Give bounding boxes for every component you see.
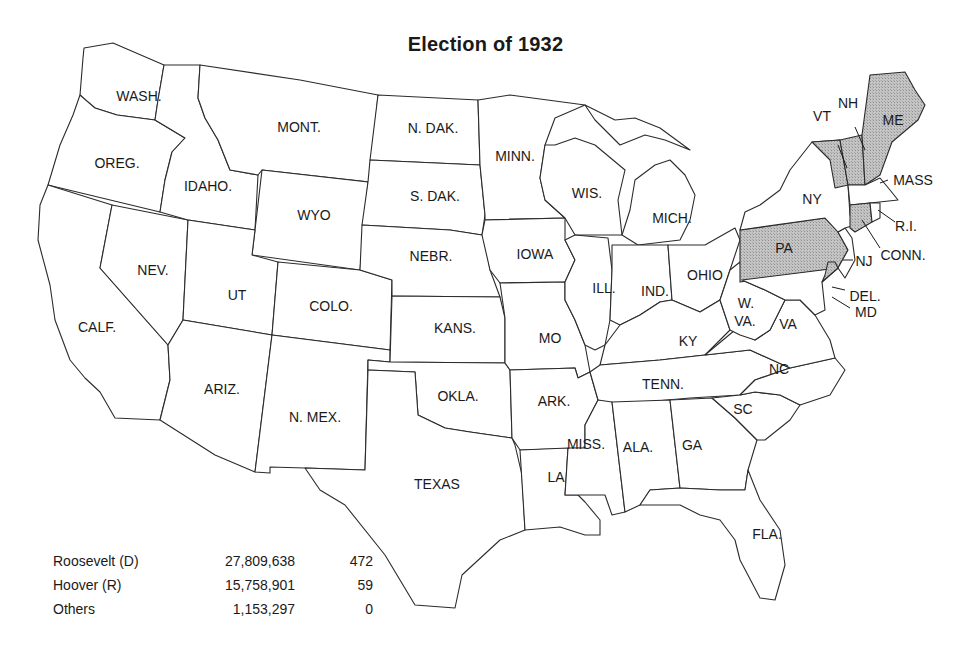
label-texas: TEXAS bbox=[414, 476, 460, 492]
state-connecticut[interactable] bbox=[850, 203, 872, 232]
label-calf: CALF. bbox=[78, 319, 116, 335]
label-ark: ARK. bbox=[538, 393, 571, 409]
label-ill: ILL. bbox=[592, 280, 615, 296]
label-wash: WASH. bbox=[116, 88, 161, 104]
label-vt: VT bbox=[813, 108, 831, 124]
label-nebr: NEBR. bbox=[410, 248, 453, 264]
popular-vote: 1,153,297 bbox=[233, 601, 295, 617]
label-tenn: TENN. bbox=[642, 376, 684, 392]
label-kans: KANS. bbox=[434, 320, 476, 336]
label-nh: NH bbox=[838, 95, 858, 111]
state-michigan[interactable] bbox=[622, 160, 695, 245]
label-ind: IND. bbox=[641, 283, 669, 299]
candidate-name: Hoover (R) bbox=[53, 577, 121, 593]
results-table: Roosevelt (D) 27,809,638 472 Hoover (R) … bbox=[53, 553, 373, 625]
label-me: ME bbox=[883, 112, 904, 128]
state-maine[interactable] bbox=[862, 72, 925, 185]
candidate-name: Others bbox=[53, 601, 95, 617]
label-sc: SC bbox=[733, 401, 752, 417]
results-row-others: Others 1,153,297 0 bbox=[53, 601, 373, 625]
label-wis: WIS. bbox=[572, 185, 602, 201]
label-ny: NY bbox=[802, 191, 822, 207]
label-pa: PA bbox=[775, 240, 793, 256]
label-conn: CONN. bbox=[880, 247, 925, 263]
label-nev: NEV. bbox=[137, 262, 168, 278]
results-row-roosevelt: Roosevelt (D) 27,809,638 472 bbox=[53, 553, 373, 577]
popular-vote: 27,809,638 bbox=[225, 553, 295, 569]
label-ariz: ARIZ. bbox=[204, 381, 240, 397]
label-oreg: OREG. bbox=[94, 155, 139, 171]
leader-del bbox=[832, 287, 845, 290]
label-ala: ALA. bbox=[623, 439, 653, 455]
label-iowa: IOWA bbox=[517, 246, 554, 262]
candidate-name: Roosevelt (D) bbox=[53, 553, 139, 569]
label-nj: NJ bbox=[855, 253, 872, 269]
label-ndak: N. DAK. bbox=[408, 120, 459, 136]
label-nmex: N. MEX. bbox=[289, 409, 341, 425]
label-colo: COLO. bbox=[309, 298, 353, 314]
label-wva-line1: W. bbox=[738, 295, 754, 311]
label-ga: GA bbox=[682, 437, 703, 453]
electoral-vote: 0 bbox=[365, 601, 373, 617]
label-mass: MASS bbox=[893, 172, 933, 188]
label-miss: MISS. bbox=[567, 436, 605, 452]
electoral-vote: 59 bbox=[357, 577, 373, 593]
label-okla: OKLA. bbox=[437, 388, 478, 404]
state-michigan-up[interactable] bbox=[585, 105, 690, 150]
label-sdak: S. DAK. bbox=[410, 188, 460, 204]
label-ky: KY bbox=[679, 333, 698, 349]
electoral-vote: 472 bbox=[350, 553, 373, 569]
label-ohio: OHIO bbox=[687, 267, 723, 283]
label-wyo: WYO bbox=[297, 207, 331, 223]
label-fla: FLA. bbox=[752, 526, 782, 542]
label-va: VA bbox=[779, 316, 797, 332]
state-rhode-island[interactable] bbox=[870, 203, 880, 222]
leader-md bbox=[832, 297, 850, 308]
label-ri: R.I. bbox=[895, 218, 917, 234]
label-minn: MINN. bbox=[495, 148, 535, 164]
label-mo: MO bbox=[539, 330, 562, 346]
label-nc: NC bbox=[769, 361, 789, 377]
label-wva-line2: VA. bbox=[734, 313, 756, 329]
label-idaho: IDAHO. bbox=[184, 178, 232, 194]
label-del: DEL. bbox=[849, 288, 880, 304]
label-ut: UT bbox=[228, 287, 247, 303]
popular-vote: 15,758,901 bbox=[225, 577, 295, 593]
label-mont: MONT. bbox=[277, 119, 321, 135]
label-la: LA bbox=[547, 469, 565, 485]
label-mich: MICH. bbox=[652, 210, 692, 226]
leader-conn bbox=[862, 220, 880, 248]
label-md: MD bbox=[855, 304, 877, 320]
results-row-hoover: Hoover (R) 15,758,901 59 bbox=[53, 577, 373, 601]
